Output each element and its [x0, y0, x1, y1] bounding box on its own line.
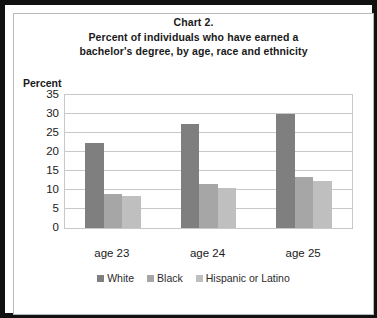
chart-title: Chart 2. Percent of individuals who have…	[19, 15, 368, 59]
y-tick-label: 30	[46, 107, 59, 119]
chart-title-line-1: Chart 2.	[19, 15, 368, 30]
bar	[85, 143, 104, 229]
bar-group	[181, 95, 237, 228]
x-tick-label: age 24	[190, 247, 225, 259]
bar	[199, 184, 218, 228]
y-tick-label: 10	[46, 183, 59, 195]
bar-group	[276, 95, 332, 228]
bar	[104, 194, 123, 228]
legend-label: Black	[157, 272, 183, 284]
y-tick-label: 0	[53, 221, 59, 233]
bar-group	[85, 95, 141, 228]
legend-swatch-icon	[196, 275, 203, 282]
legend-entry[interactable]: White	[97, 272, 134, 284]
y-axis-tick-labels: 35302520151050	[19, 91, 59, 232]
legend-label: White	[107, 272, 134, 284]
bar	[122, 196, 141, 228]
plot-wrapper: 35302520151050	[19, 91, 364, 243]
chart-figure-frame: Chart 2. Percent of individuals who have…	[0, 0, 377, 318]
x-tick-label: age 25	[286, 247, 321, 259]
bar	[313, 181, 332, 229]
y-tick-label: 5	[53, 202, 59, 214]
x-axis-category-labels: age 23age 24age 25	[64, 247, 353, 265]
legend-swatch-icon	[147, 275, 154, 282]
bar	[218, 188, 237, 228]
y-tick-label: 15	[46, 164, 59, 176]
plot-area	[64, 94, 353, 229]
legend-label: Hispanic or Latino	[206, 272, 290, 284]
bar	[181, 124, 200, 229]
bar	[295, 177, 314, 228]
chart-title-line-2: Percent of individuals who have earned a	[19, 30, 368, 45]
y-tick-label: 25	[46, 126, 59, 138]
x-tick-label: age 23	[94, 247, 129, 259]
bar	[276, 114, 295, 228]
y-tick-label: 20	[46, 145, 59, 157]
y-tick-label: 35	[46, 88, 59, 100]
legend-entry[interactable]: Black	[147, 272, 183, 284]
legend-entry[interactable]: Hispanic or Latino	[196, 272, 290, 284]
chart-title-line-3: bachelor's degree, by age, race and ethn…	[19, 44, 368, 59]
legend-swatch-icon	[97, 275, 104, 282]
chart-legend: WhiteBlackHispanic or Latino	[19, 272, 368, 284]
